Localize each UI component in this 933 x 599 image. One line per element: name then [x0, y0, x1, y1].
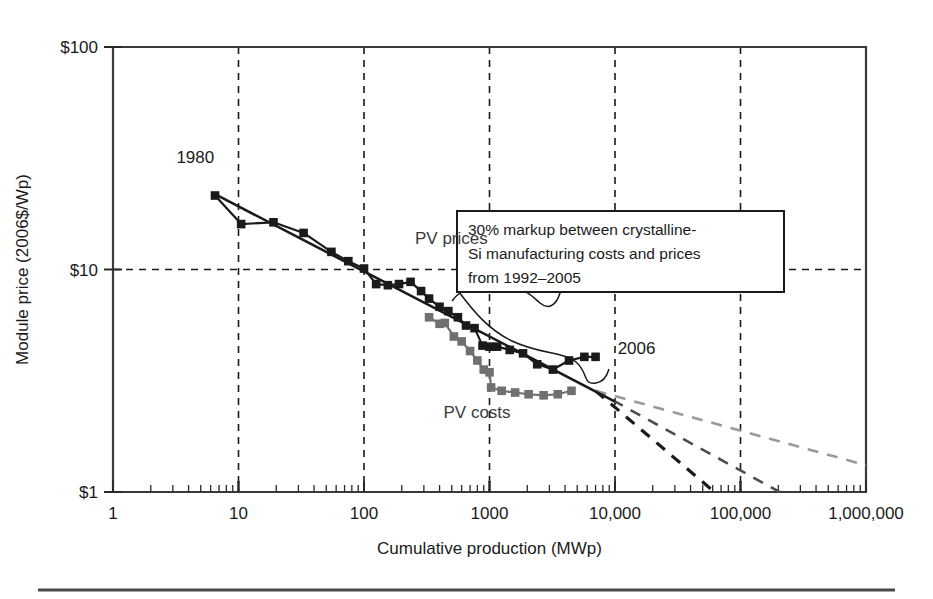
data-point-marker	[211, 191, 220, 200]
data-point-marker	[269, 218, 278, 227]
markup-callout-line-1: 30% markup between crystalline-	[468, 221, 696, 238]
chart-background	[0, 0, 933, 599]
data-point-marker	[485, 342, 494, 351]
markup-callout-line-2: Si manufacturing costs and prices	[468, 245, 701, 262]
year-start: 1980	[176, 148, 214, 167]
experience-curve-chart: 30% markup between crystalline-Si manufa…	[0, 0, 933, 599]
ytick-label-$1: $1	[79, 483, 98, 502]
callout-box: 30% markup between crystalline-Si manufa…	[457, 211, 784, 292]
ytick-label-$100: $100	[60, 38, 98, 57]
data-point-marker	[462, 321, 471, 330]
data-point-marker	[372, 280, 381, 289]
series-label-costs: PV costs	[444, 403, 511, 422]
xtick-label-100: 100	[350, 504, 378, 523]
data-point-marker	[395, 280, 404, 289]
data-point-marker	[435, 302, 444, 311]
data-point-marker	[505, 346, 514, 355]
data-point-marker	[519, 349, 528, 358]
data-point-marker	[299, 229, 308, 238]
data-point-marker	[444, 307, 453, 316]
data-point-marker	[425, 313, 434, 322]
data-point-marker	[493, 342, 502, 351]
xtick-label-10: 10	[229, 504, 248, 523]
data-point-marker	[237, 220, 246, 229]
y-axis-title: Module price (2006$/Wp)	[13, 174, 32, 365]
data-point-marker	[425, 294, 434, 303]
data-point-marker	[466, 347, 475, 356]
data-point-marker	[384, 281, 393, 290]
data-point-marker	[511, 388, 520, 397]
data-point-marker	[580, 353, 589, 362]
xtick-label-1000: 1000	[471, 504, 509, 523]
data-point-marker	[360, 264, 369, 273]
xtick-label-1,000,000: 1,000,000	[828, 504, 904, 523]
data-point-marker	[440, 319, 449, 328]
xtick-label-100,000: 100,000	[710, 504, 771, 523]
data-point-marker	[487, 383, 496, 392]
data-point-marker	[497, 387, 506, 396]
data-point-marker	[485, 368, 494, 377]
ytick-label-$10: $10	[70, 261, 98, 280]
data-point-marker	[524, 390, 533, 399]
data-point-marker	[553, 390, 562, 399]
data-point-marker	[344, 257, 353, 266]
data-point-marker	[450, 332, 459, 341]
year-end: 2006	[618, 339, 656, 358]
data-point-marker	[473, 356, 482, 365]
markup-callout-line-3: from 1992–2005	[468, 269, 581, 286]
data-point-marker	[327, 248, 336, 257]
series-label-prices: PV prices	[415, 229, 488, 248]
data-point-marker	[549, 365, 558, 374]
x-axis-title: Cumulative production (MWp)	[377, 539, 602, 558]
data-point-marker	[406, 278, 415, 287]
xtick-label-1: 1	[108, 504, 117, 523]
data-point-marker	[417, 287, 426, 296]
xtick-label-10,000: 10,000	[589, 504, 641, 523]
data-point-marker	[454, 313, 463, 322]
figure-container: 30% markup between crystalline-Si manufa…	[0, 0, 933, 599]
data-point-marker	[470, 324, 479, 333]
data-point-marker	[567, 387, 576, 396]
data-point-marker	[533, 360, 542, 369]
data-point-marker	[591, 353, 600, 362]
data-point-marker	[457, 337, 466, 346]
data-point-marker	[539, 391, 548, 400]
